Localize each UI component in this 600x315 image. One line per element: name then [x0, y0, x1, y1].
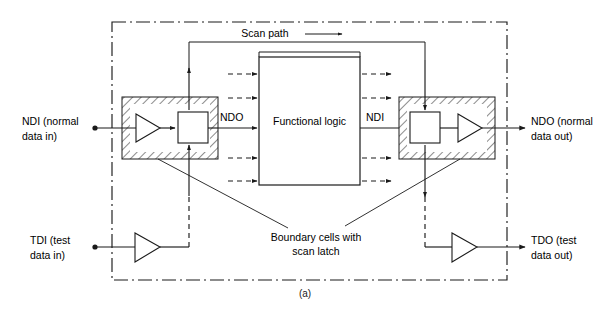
ndi-internal-label: NDI: [366, 111, 384, 123]
tdo-buffer-icon: [452, 233, 477, 262]
ndi-port-label-line2: data in): [22, 130, 57, 142]
ndo-port-label-line1: NDO (normal: [531, 115, 593, 127]
ndo-port-label-line2: data out): [531, 130, 572, 142]
ndi-input-node-dot: [92, 125, 97, 130]
ndi-port-label-line1: NDI (normal: [22, 115, 79, 127]
scan-path-inner-rail: [259, 52, 360, 57]
figure-caption: (a): [299, 288, 311, 299]
leader-line-right-cell: [345, 159, 460, 226]
ndo-internal-label: NDO: [220, 111, 243, 123]
tdi-port-label-line2: data in): [30, 249, 65, 261]
right-cell-scan-latch: [410, 112, 440, 143]
left-cell-scan-latch: [178, 112, 208, 143]
figure-canvas: Scan path Functional logic NDO NDI: [0, 0, 600, 315]
functional-logic-label: Functional logic: [273, 115, 346, 127]
tdo-port-label-line1: TDO (test: [531, 234, 577, 246]
scan-path-label: Scan path: [241, 27, 288, 39]
boundary-note-line2: scan latch: [292, 245, 339, 257]
boundary-scan-figure: Scan path Functional logic NDO NDI: [0, 0, 600, 315]
boundary-note-line1: Boundary cells with: [271, 231, 362, 243]
tdo-port-label-line2: data out): [531, 249, 572, 261]
tdi-buffer-icon: [135, 233, 160, 262]
tdi-port-label-line1: TDI (test: [30, 234, 70, 246]
